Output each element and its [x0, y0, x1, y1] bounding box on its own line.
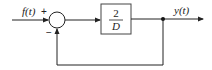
plus-sign: + — [41, 6, 47, 17]
minus-sign: − — [46, 27, 52, 38]
input-label: f(t) — [22, 5, 36, 18]
block-denominator: D — [111, 20, 120, 32]
block-numerator: 2 — [113, 7, 119, 19]
output-label: y(t) — [173, 4, 190, 17]
block-diagram: f(t) + − 2 D y(t) — [0, 0, 212, 70]
summing-junction — [49, 12, 65, 28]
